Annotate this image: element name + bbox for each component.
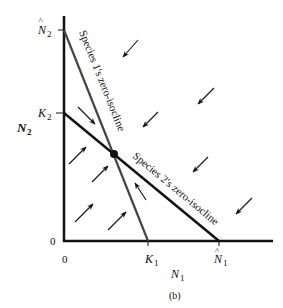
x-origin-label: 0 [62, 253, 68, 265]
svg-text:2: 2 [27, 127, 32, 137]
arrow-icon [143, 112, 158, 127]
arrow-icon [123, 40, 138, 57]
y-origin-label: 0 [50, 235, 56, 247]
svg-text:1: 1 [223, 258, 228, 268]
arrow-icon [92, 166, 108, 182]
arrow-icon [108, 212, 126, 230]
y-tick-k2-label: K 2 [37, 106, 52, 122]
y-axis-label: N 2 [16, 120, 32, 137]
arrow-icon [193, 157, 208, 172]
svg-text:K: K [144, 252, 154, 266]
arrow-icon [75, 204, 93, 222]
arrow-icon [69, 147, 86, 164]
svg-text:K: K [37, 106, 47, 120]
x-tick-n1-hat-label: N ^ 1 [213, 246, 228, 268]
x-tick-k1-label: K 1 [144, 252, 159, 268]
arrow-icon [236, 198, 252, 214]
svg-text:2: 2 [47, 29, 52, 39]
svg-text:N: N [16, 120, 27, 135]
arrow-icon [198, 88, 214, 104]
phase-plane-diagram: Species 1's zero-isocline Species 2's ze… [0, 0, 283, 308]
arrow-icon [78, 107, 95, 124]
arrow-icon [135, 183, 146, 200]
y-tick-n2-hat-label: N ^ 2 [37, 16, 52, 39]
equilibrium-point [110, 150, 118, 158]
species-2-isocline-label: Species 2's zero-isocline [131, 149, 222, 227]
species-1-isocline [64, 30, 148, 241]
svg-text:N: N [170, 267, 180, 281]
svg-text:1: 1 [154, 258, 159, 268]
svg-text:1: 1 [180, 273, 185, 283]
svg-text:2: 2 [47, 112, 52, 122]
x-axis-label: N 1 [170, 267, 185, 283]
figure-caption: (b) [169, 290, 181, 302]
